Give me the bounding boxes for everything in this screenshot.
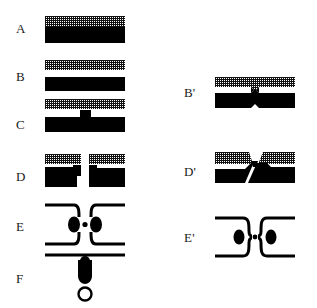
panel-label-f: F <box>16 272 23 285</box>
solid-substrate-layer <box>45 117 125 132</box>
panel-label-e-prime: E' <box>184 231 195 244</box>
center-particle <box>82 222 87 227</box>
panel-b-diagram <box>45 60 125 92</box>
center-particle <box>253 235 258 240</box>
lower-channel-wall <box>45 232 125 244</box>
hatched-film-layer <box>45 60 125 70</box>
lower-channel-wall <box>215 238 295 256</box>
panel-c-diagram <box>45 99 125 133</box>
hatched-film-layer <box>45 16 125 27</box>
released-open-circle <box>79 288 92 301</box>
panel-label-b-prime: B' <box>184 86 195 99</box>
panel-label-c: C <box>16 118 25 131</box>
upper-channel-wall <box>215 218 295 236</box>
solid-substrate-left-body <box>45 168 77 187</box>
hatched-film-layer-right <box>89 154 125 164</box>
panel-e-diagram <box>45 201 125 248</box>
upper-channel-wall <box>45 205 125 217</box>
process-sequence-figure: A B C D E F B' D' E' <box>0 0 317 308</box>
hatched-film-layer <box>45 99 125 109</box>
solid-substrate-layer <box>45 77 125 91</box>
panel-d-prime-diagram <box>215 150 295 185</box>
hatched-film-layer-pinched <box>215 77 295 91</box>
right-particle <box>266 230 277 245</box>
panel-label-d-prime: D' <box>184 165 196 178</box>
panel-label-b: B <box>16 70 25 83</box>
right-particle <box>90 217 102 233</box>
panel-label-e: E <box>16 220 24 233</box>
solid-substrate-right-body <box>89 168 125 187</box>
hatched-film-layer-left <box>45 154 81 164</box>
panel-b-prime-diagram <box>215 77 295 110</box>
left-particle <box>68 217 80 233</box>
droplet-neck <box>80 256 90 266</box>
solid-substrate-layer <box>45 27 125 43</box>
panel-f-diagram <box>45 252 125 302</box>
panel-label-a: A <box>16 22 26 35</box>
hatched-film-flap-right <box>259 152 295 164</box>
hatched-film-flap-left <box>215 152 253 164</box>
panel-d-diagram <box>45 154 125 189</box>
central-cleft-gap <box>81 154 89 167</box>
solid-substrate-left-step <box>73 165 81 175</box>
left-particle <box>234 230 245 245</box>
panel-e-prime-diagram <box>215 214 295 260</box>
central-solid-pillar <box>80 110 91 118</box>
panel-a-diagram <box>45 16 125 44</box>
solid-substrate-pinched <box>215 89 295 108</box>
panel-label-d: D <box>16 170 26 183</box>
